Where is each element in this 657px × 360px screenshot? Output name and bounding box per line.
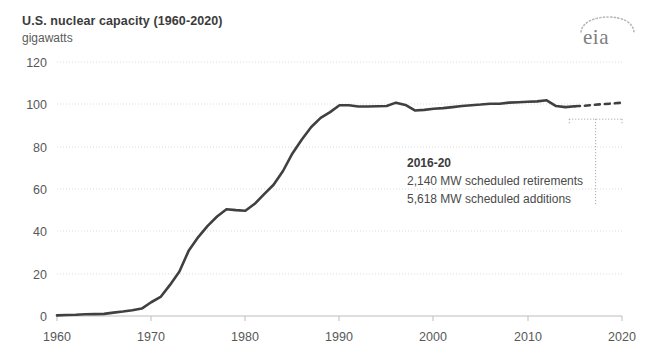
x-tick-label: 1960 xyxy=(43,330,71,344)
x-tick-label: 1990 xyxy=(325,330,353,344)
gridlines xyxy=(57,62,622,274)
x-axis-tick-labels: 1960 1970 1980 1990 2000 2010 2020 xyxy=(43,330,636,344)
annotation-line-retirements: 2,140 MW scheduled retirements xyxy=(407,174,583,188)
y-tick-label: 120 xyxy=(26,56,47,70)
x-tick-label: 1980 xyxy=(231,330,259,344)
capacity-line-projected xyxy=(575,103,622,107)
annotation-heading: 2016-20 xyxy=(407,156,451,170)
y-tick-label: 40 xyxy=(33,225,47,239)
y-tick-label: 60 xyxy=(33,183,47,197)
x-tick-label: 1970 xyxy=(137,330,165,344)
y-tick-label: 80 xyxy=(33,141,47,155)
capacity-line-historical xyxy=(57,100,575,315)
annotation-bracket xyxy=(569,119,622,205)
y-tick-label: 100 xyxy=(26,98,47,112)
chart-plot-area: 120 100 80 60 40 20 0 1960 1970 1980 199… xyxy=(0,0,657,360)
y-tick-label: 20 xyxy=(33,268,47,282)
x-tick-label: 2020 xyxy=(608,330,636,344)
chart-annotation: 2016-20 2,140 MW scheduled retirements 5… xyxy=(407,156,583,206)
annotation-line-additions: 5,618 MW scheduled additions xyxy=(407,192,571,206)
x-tick-label: 2000 xyxy=(419,330,447,344)
y-tick-label: 0 xyxy=(40,310,47,324)
x-tick-label: 2010 xyxy=(514,330,542,344)
x-axis-ticks xyxy=(57,316,622,321)
y-axis-tick-labels: 120 100 80 60 40 20 0 xyxy=(26,56,47,324)
chart-figure: U.S. nuclear capacity (1960-2020) gigawa… xyxy=(0,0,657,360)
